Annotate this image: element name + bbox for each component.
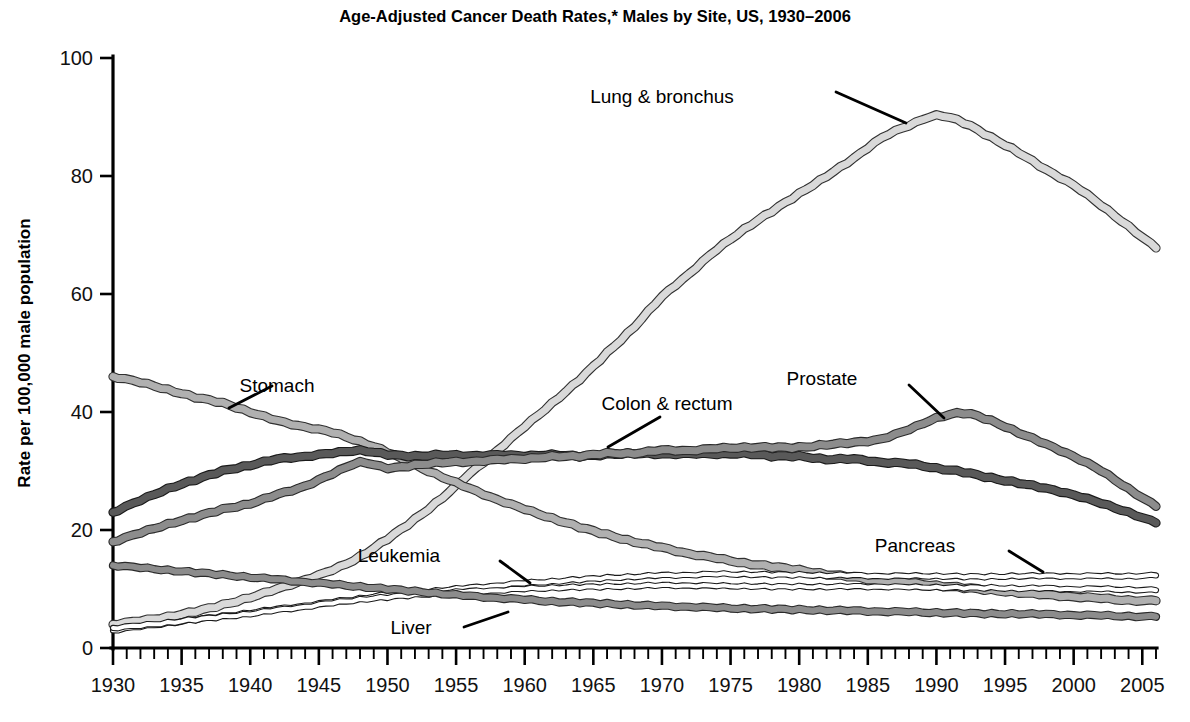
y-tick-label: 20 xyxy=(71,519,93,541)
y-tick-label: 60 xyxy=(71,283,93,305)
annotation-leukemia: Leukemia xyxy=(358,545,530,583)
y-axis-ticks: 020406080100 xyxy=(60,47,113,659)
x-tick-label: 1955 xyxy=(434,674,479,696)
x-tick-label: 2005 xyxy=(1120,674,1165,696)
x-tick-label: 1930 xyxy=(91,674,136,696)
leader-line-prostate xyxy=(909,385,944,418)
x-tick-label: 1935 xyxy=(159,674,204,696)
x-tick-label: 1995 xyxy=(983,674,1028,696)
leader-line-liver xyxy=(464,612,508,627)
annotation-stomach: Stomach xyxy=(229,375,314,408)
y-tick-label: 0 xyxy=(82,637,93,659)
chart-figure: Age-Adjusted Cancer Death Rates,* Males … xyxy=(0,0,1190,722)
series-band xyxy=(113,450,1156,523)
leader-line-leukemia xyxy=(500,561,530,583)
x-tick-label: 1940 xyxy=(228,674,273,696)
series-label-colon-rectum: Colon & rectum xyxy=(602,393,733,414)
series-lung-bronchus xyxy=(113,115,1156,625)
leader-line-pancreas xyxy=(1009,551,1043,572)
x-tick-label: 1970 xyxy=(640,674,685,696)
chart-svg: Age-Adjusted Cancer Death Rates,* Males … xyxy=(0,0,1190,722)
series-annotations: Lung & bronchusStomachColon & rectumPros… xyxy=(229,86,1043,638)
y-tick-label: 80 xyxy=(71,165,93,187)
annotation-colon-rectum: Colon & rectum xyxy=(602,393,733,447)
x-tick-label: 1975 xyxy=(708,674,753,696)
series-label-lung-bronchus: Lung & bronchus xyxy=(590,86,734,107)
series-label-liver: Liver xyxy=(390,617,432,638)
x-axis-ticks: 1930193519401945195019551960196519701975… xyxy=(91,648,1165,696)
series-outline xyxy=(113,115,1156,625)
y-tick-label: 100 xyxy=(60,47,93,69)
x-tick-label: 1960 xyxy=(502,674,547,696)
x-tick-label: 1985 xyxy=(846,674,891,696)
series-label-pancreas: Pancreas xyxy=(875,535,955,556)
y-axis-title: Rate per 100,000 male population xyxy=(15,218,34,487)
annotation-pancreas: Pancreas xyxy=(875,535,1043,572)
series-curves xyxy=(113,115,1156,631)
x-tick-label: 1945 xyxy=(297,674,342,696)
series-label-stomach: Stomach xyxy=(240,375,315,396)
series-colon-rectum xyxy=(113,450,1156,523)
annotation-liver: Liver xyxy=(390,612,508,638)
series-band xyxy=(113,115,1156,625)
annotation-lung-bronchus: Lung & bronchus xyxy=(590,86,906,123)
series-label-prostate: Prostate xyxy=(787,368,858,389)
x-tick-label: 2000 xyxy=(1051,674,1096,696)
leader-line-lung-bronchus xyxy=(836,92,906,123)
y-tick-label: 40 xyxy=(71,401,93,423)
x-tick-label: 1965 xyxy=(571,674,616,696)
annotation-prostate: Prostate xyxy=(787,368,944,418)
x-tick-label: 1990 xyxy=(914,674,959,696)
x-tick-label: 1950 xyxy=(365,674,410,696)
series-label-leukemia: Leukemia xyxy=(358,545,441,566)
leader-line-colon-rectum xyxy=(608,417,660,447)
chart-title: Age-Adjusted Cancer Death Rates,* Males … xyxy=(339,7,851,25)
x-tick-label: 1980 xyxy=(777,674,822,696)
